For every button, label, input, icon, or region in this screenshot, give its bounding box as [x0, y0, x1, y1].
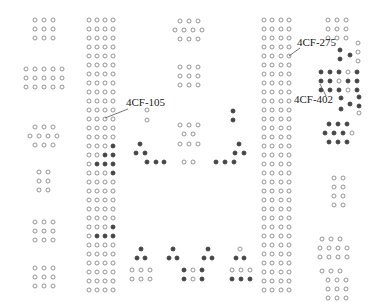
mid-a1-open-dot — [178, 19, 182, 23]
column-4-open-dot — [270, 171, 274, 175]
column-2-filled-dot — [103, 162, 107, 166]
left-a-open-dot — [42, 36, 46, 40]
column-4-open-dot — [270, 279, 274, 283]
cluster-open-dot — [187, 142, 191, 146]
column-2-open-dot — [87, 234, 91, 238]
column-4-open-dot — [262, 216, 266, 220]
column-4-open-dot — [287, 171, 291, 175]
column-4-open-dot — [270, 180, 274, 184]
cluster-filled-dot — [239, 277, 243, 281]
column-2-open-dot — [111, 45, 115, 49]
left-f-open-dot — [42, 275, 46, 279]
cluster-filled-dot — [210, 256, 214, 260]
cluster-filled-dot — [134, 151, 138, 155]
column-2-open-dot — [111, 189, 115, 193]
column-2-open-dot — [103, 135, 107, 139]
cluster-open-dot — [346, 88, 350, 92]
column-2-open-dot — [103, 144, 107, 148]
column-4-open-dot — [262, 189, 266, 193]
column-2-open-dot — [111, 90, 115, 94]
column-4-open-dot — [262, 261, 266, 265]
cluster-filled-dot — [230, 277, 234, 281]
column-4-open-dot — [287, 45, 291, 49]
column-2-open-dot — [95, 45, 99, 49]
column-2-open-dot — [103, 90, 107, 94]
column-2-open-dot — [95, 144, 99, 148]
right-e-open-dot — [344, 287, 348, 291]
column-4-open-dot — [279, 243, 283, 247]
column-4-open-dot — [270, 144, 274, 148]
column-2-open-dot — [111, 126, 115, 130]
leader-line — [289, 48, 300, 56]
left-d-open-dot — [37, 188, 41, 192]
column-2-filled-dot — [95, 234, 99, 238]
cluster-filled-dot — [328, 70, 332, 74]
cluster-filled-dot — [214, 160, 218, 164]
column-2-open-dot — [103, 18, 107, 22]
left-a-open-dot — [33, 27, 37, 31]
column-2-open-dot — [103, 270, 107, 274]
column-2-open-dot — [87, 207, 91, 211]
column-4-open-dot — [270, 153, 274, 157]
column-2-open-dot — [103, 261, 107, 265]
column-4-open-dot — [287, 216, 291, 220]
cluster-filled-dot — [200, 268, 204, 272]
cluster-filled-dot — [355, 88, 359, 92]
column-2-open-dot — [95, 225, 99, 229]
left-e-open-dot — [51, 238, 55, 242]
left-f-open-dot — [33, 284, 37, 288]
column-4-open-dot — [270, 225, 274, 229]
column-2-open-dot — [87, 198, 91, 202]
column-4-open-dot — [262, 54, 266, 58]
mid-a2-open-dot — [191, 28, 195, 32]
column-2-open-dot — [111, 27, 115, 31]
column-2-open-dot — [95, 99, 99, 103]
column-4-open-dot — [262, 135, 266, 139]
cluster-filled-dot — [231, 109, 235, 113]
left-e-open-dot — [42, 229, 46, 233]
right-e-open-dot — [326, 296, 330, 300]
column-4-open-dot — [262, 162, 266, 166]
cluster-open-dot — [230, 268, 234, 272]
column-2-open-dot — [87, 36, 91, 40]
column-4-open-dot — [287, 144, 291, 148]
column-4-open-dot — [287, 99, 291, 103]
column-4-open-dot — [279, 171, 283, 175]
column-4-open-dot — [287, 234, 291, 238]
cluster-filled-dot — [319, 79, 323, 83]
left-c3-open-dot — [33, 143, 37, 147]
column-4-open-dot — [270, 243, 274, 247]
cluster-open-dot — [239, 268, 243, 272]
column-4-open-dot — [262, 117, 266, 121]
column-2-open-dot — [95, 180, 99, 184]
leader-line — [105, 109, 128, 118]
column-4-open-dot — [270, 162, 274, 166]
cluster-filled-dot — [145, 160, 149, 164]
column-2-open-dot — [103, 180, 107, 184]
left-f-open-dot — [51, 266, 55, 270]
cluster-open-dot — [187, 123, 191, 127]
left-b-open-dot — [51, 67, 55, 71]
left-c1-open-dot — [33, 125, 37, 129]
column-4-open-dot — [279, 126, 283, 130]
right-f-open-dot — [341, 194, 345, 198]
cluster-filled-dot — [234, 256, 238, 260]
cluster-filled-dot — [357, 104, 361, 108]
right-f-open-dot — [332, 194, 336, 198]
column-4-open-dot — [287, 27, 291, 31]
left-c2-open-dot — [55, 134, 59, 138]
left-c2-open-dot — [28, 134, 32, 138]
left-a-open-dot — [42, 27, 46, 31]
cluster-open-dot — [130, 277, 134, 281]
right-a-open-dot — [335, 27, 339, 31]
cluster-filled-dot — [338, 57, 342, 61]
column-2-open-dot — [95, 279, 99, 283]
cluster-filled-dot — [336, 122, 340, 126]
left-a-open-dot — [33, 36, 37, 40]
left-d-open-dot — [37, 170, 41, 174]
column-4-open-dot — [270, 207, 274, 211]
right-a-open-dot — [344, 18, 348, 22]
column-2-open-dot — [95, 207, 99, 211]
cluster-filled-dot — [171, 247, 175, 251]
right-e-open-dot — [335, 287, 339, 291]
